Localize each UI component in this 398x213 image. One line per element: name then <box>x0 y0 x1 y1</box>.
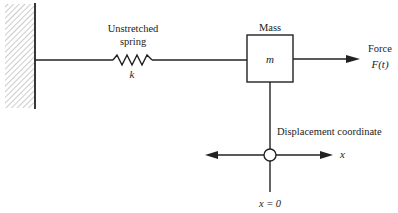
wall-hatch <box>5 4 34 108</box>
force-arrowhead-icon <box>346 55 360 63</box>
spring-label-line2: spring <box>120 36 147 47</box>
displacement-label: Displacement coordinate <box>277 126 382 137</box>
arrow-left-icon <box>205 151 218 159</box>
spring-label-line1: Unstretched <box>108 23 159 34</box>
spring-constant-label: k <box>130 68 136 80</box>
origin-label: x = 0 <box>258 198 282 209</box>
mass-title: Mass <box>259 22 281 33</box>
axis-label: x <box>339 148 345 160</box>
mass-symbol: m <box>266 53 274 65</box>
fixed-wall <box>5 3 35 109</box>
mass-spring-diagram: Unstretched spring k Mass m Force F(t) D… <box>0 0 398 213</box>
origin-marker-icon <box>264 149 276 161</box>
spring <box>113 55 152 65</box>
force-label: Force <box>368 43 392 54</box>
force-symbol: F(t) <box>370 58 388 71</box>
arrow-right-icon <box>320 151 333 159</box>
